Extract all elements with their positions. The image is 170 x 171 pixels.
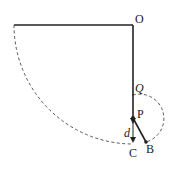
label-o: O [135,12,144,26]
point-q [132,94,134,96]
pendulum-diagram: O Q P d C B [0,0,170,171]
label-p: P [137,107,144,121]
string-segment-pb [133,118,146,142]
label-b: B [146,142,154,156]
label-q: Q [135,81,144,95]
large-swing-arc [14,25,133,144]
label-c: C [129,146,137,160]
label-d: d [124,126,131,140]
peg-point-p [131,116,135,120]
